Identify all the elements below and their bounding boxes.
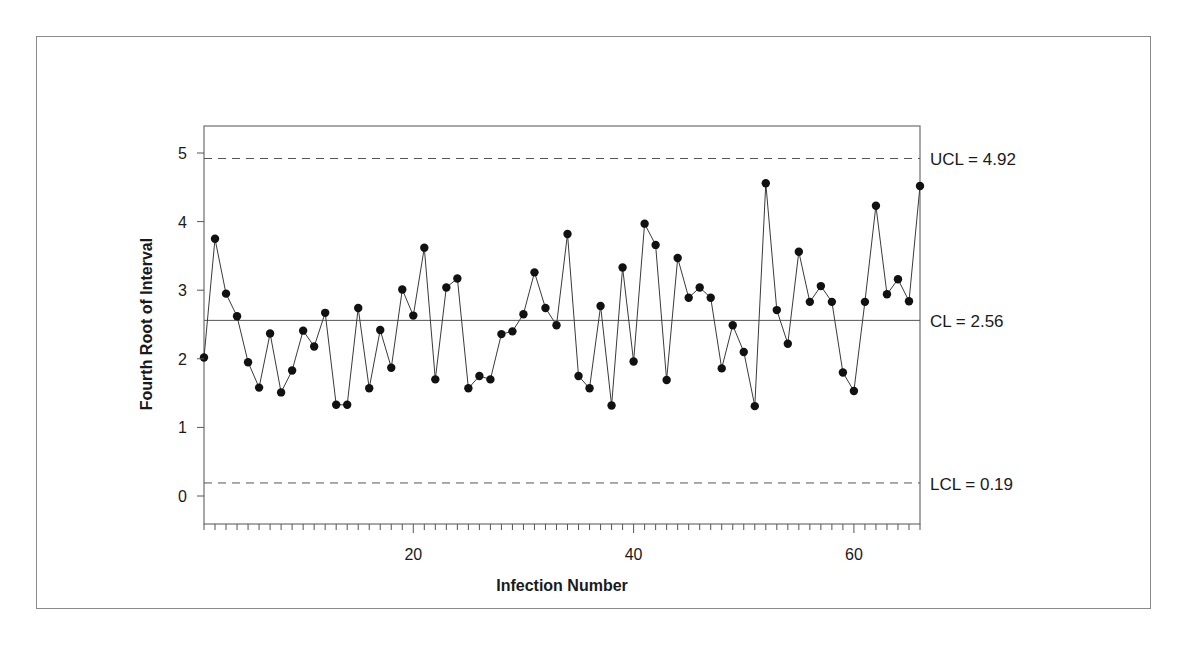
axes: 012345204060 — [178, 145, 920, 563]
data-point — [277, 388, 285, 396]
data-point — [784, 340, 792, 348]
data-point — [905, 297, 913, 305]
data-point — [332, 401, 340, 409]
data-point — [894, 275, 902, 283]
data-point — [872, 202, 880, 210]
data-point — [398, 285, 406, 293]
data-point — [431, 375, 439, 383]
control-chart: UCL = 4.92CL = 2.56LCL = 0.19 0123452040… — [0, 0, 1186, 646]
y-tick-label: 0 — [178, 488, 187, 505]
data-point — [629, 357, 637, 365]
data-point — [288, 366, 296, 374]
data-point — [497, 330, 505, 338]
data-point — [684, 294, 692, 302]
y-tick-label: 3 — [178, 282, 187, 299]
data-point — [795, 248, 803, 256]
x-tick-label: 20 — [404, 546, 422, 563]
data-point — [211, 235, 219, 243]
data-point — [552, 321, 560, 329]
y-axis-title: Fourth Root of Interval — [138, 238, 155, 410]
data-point — [718, 364, 726, 372]
data-point — [310, 342, 318, 350]
x-tick-label: 60 — [845, 546, 863, 563]
data-point — [376, 326, 384, 334]
plot-area — [204, 126, 920, 524]
data-point — [861, 298, 869, 306]
data-point — [255, 383, 263, 391]
data-point — [365, 384, 373, 392]
control-limits: UCL = 4.92CL = 2.56LCL = 0.19 — [204, 150, 1016, 493]
lcl-label: LCL = 0.19 — [930, 475, 1013, 494]
data-point — [530, 268, 538, 276]
data-point — [343, 401, 351, 409]
data-point — [519, 310, 527, 318]
data-point — [475, 372, 483, 380]
data-point — [233, 312, 241, 320]
data-point — [486, 375, 494, 383]
x-tick-label: 40 — [625, 546, 643, 563]
y-tick-label: 2 — [178, 351, 187, 368]
data-point — [651, 241, 659, 249]
data-point — [222, 289, 230, 297]
data-point — [662, 376, 670, 384]
data-point — [740, 348, 748, 356]
data-point — [244, 358, 252, 366]
data-point — [266, 329, 274, 337]
y-tick-label: 4 — [178, 214, 187, 231]
data-series — [200, 179, 924, 410]
y-tick-label: 5 — [178, 145, 187, 162]
y-tick-label: 1 — [178, 419, 187, 436]
data-point — [729, 321, 737, 329]
data-point — [618, 263, 626, 271]
ucl-label: UCL = 4.92 — [930, 150, 1016, 169]
data-point — [607, 401, 615, 409]
data-point — [916, 182, 924, 190]
center-label: CL = 2.56 — [930, 312, 1004, 331]
data-point — [464, 384, 472, 392]
data-point — [806, 298, 814, 306]
data-point — [817, 282, 825, 290]
data-point — [762, 179, 770, 187]
data-point — [596, 302, 604, 310]
data-point — [839, 368, 847, 376]
data-point — [200, 353, 208, 361]
data-point — [828, 298, 836, 306]
x-axis-title: Infection Number — [496, 577, 628, 594]
data-point — [387, 364, 395, 372]
data-point — [321, 309, 329, 317]
data-point — [541, 304, 549, 312]
data-point — [420, 243, 428, 251]
data-point — [751, 402, 759, 410]
data-point — [673, 254, 681, 262]
data-point — [299, 326, 307, 334]
data-point — [508, 327, 516, 335]
data-point — [354, 304, 362, 312]
data-point — [640, 219, 648, 227]
plot-border — [204, 126, 920, 524]
data-point — [585, 384, 593, 392]
data-point — [695, 283, 703, 291]
data-point — [442, 283, 450, 291]
data-point — [563, 230, 571, 238]
data-point — [883, 290, 891, 298]
data-point — [574, 372, 582, 380]
data-point — [453, 274, 461, 282]
series-line — [204, 183, 920, 406]
data-point — [707, 294, 715, 302]
data-point — [773, 306, 781, 314]
data-point — [850, 387, 858, 395]
data-point — [409, 311, 417, 319]
